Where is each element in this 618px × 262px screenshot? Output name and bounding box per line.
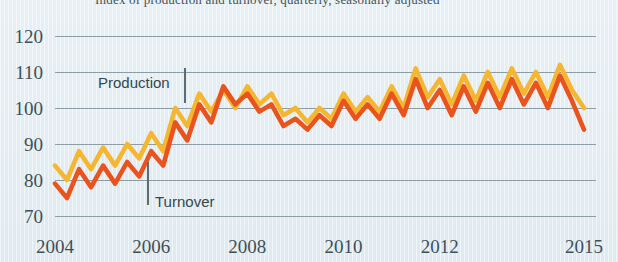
production-turnover-chart: Index of production and turnover, quarte… [0,0,618,262]
x-axis-tick-label: 2012 [421,236,459,257]
x-axis-tick-label: 2008 [228,236,266,257]
annotation-label-turnover: Turnover [155,193,214,210]
y-axis-tick-label: 120 [15,26,44,47]
chart-canvas: 120110100908070 200420062008201020122015… [0,0,618,262]
y-axis-tick-label: 70 [24,206,43,227]
x-axis-tick-label: 2006 [132,236,170,257]
gridlines-group [55,36,596,216]
x-axis-tick-label: 2010 [325,236,363,257]
y-axis-tick-label: 90 [24,134,43,155]
x-axis-ticks: 200420062008201020122015 [36,236,603,257]
x-axis-tick-label: 2015 [565,236,603,257]
y-axis-tick-label: 80 [24,170,43,191]
y-axis-ticks: 120110100908070 [15,26,44,227]
y-axis-tick-label: 100 [15,98,44,119]
annotation-label-production: Production [98,74,170,91]
x-axis-tick-label: 2004 [36,236,75,257]
y-axis-tick-label: 110 [15,62,43,83]
